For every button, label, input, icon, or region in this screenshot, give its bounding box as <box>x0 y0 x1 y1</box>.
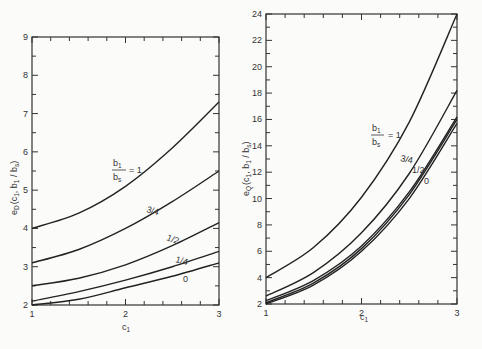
left-curves <box>32 102 219 305</box>
svg-text:bs: bs <box>372 137 381 148</box>
y-tick-label: 9 <box>23 32 28 42</box>
left-y-axis-label: eD(c1, b1 / bs) <box>9 161 20 215</box>
charts-canvas: 23456789123 eD(c1, b1 / bs) c1 b1 bs = 1… <box>0 0 482 349</box>
series-line <box>266 117 457 301</box>
series-line <box>32 251 219 301</box>
series-line <box>32 171 219 263</box>
y-tick-label: 20 <box>252 62 262 72</box>
x-tick-label: 3 <box>454 308 459 318</box>
left-chart: 23456789123 eD(c1, b1 / bs) c1 b1 bs = 1… <box>9 32 222 333</box>
y-tick-label: 5 <box>23 185 28 195</box>
y-tick-label: 10 <box>252 194 262 204</box>
y-tick-label: 8 <box>23 70 28 80</box>
left-label-3-4: 3/4 <box>145 204 160 217</box>
y-tick-label: 24 <box>252 9 262 19</box>
svg-text:= 1: = 1 <box>388 130 401 140</box>
y-tick-label: 22 <box>252 35 262 45</box>
x-tick-label: 3 <box>216 309 221 319</box>
y-tick-label: 6 <box>257 246 262 256</box>
y-tick-label: 4 <box>257 273 262 283</box>
y-tick-label: 8 <box>257 220 262 230</box>
x-tick-label: 1 <box>29 309 34 319</box>
right-chart: 24681012141618202224123 eQ(c1, b1 / bs) … <box>241 9 460 323</box>
y-tick-label: 7 <box>23 109 28 119</box>
x-tick-label: 2 <box>123 309 128 319</box>
svg-text:= 1: = 1 <box>129 165 142 175</box>
right-label-1-2: 1/2 <box>412 165 425 175</box>
y-tick-label: 2 <box>257 299 262 309</box>
right-x-axis-label: c1 <box>360 312 369 323</box>
svg-text:b1: b1 <box>113 158 122 169</box>
left-label-1-2: 1/2 <box>165 232 180 246</box>
left-x-axis-label: c1 <box>122 322 131 333</box>
y-tick-label: 2 <box>23 300 28 310</box>
y-tick-label: 3 <box>23 262 28 272</box>
y-tick-label: 16 <box>252 114 262 124</box>
series-line <box>32 263 219 305</box>
series-line <box>32 223 219 286</box>
right-curves <box>266 14 457 304</box>
right-label-3-4: 3/4 <box>400 153 414 165</box>
svg-text:bs: bs <box>113 172 122 183</box>
series-line <box>32 102 219 228</box>
y-tick-label: 4 <box>23 223 28 233</box>
x-tick-label: 1 <box>263 308 268 318</box>
series-line <box>266 14 457 278</box>
left-label-0: 0 <box>183 274 188 284</box>
right-label-0: 0 <box>424 176 429 186</box>
series-line <box>266 119 457 302</box>
y-tick-label: 6 <box>23 147 28 157</box>
svg-text:b1: b1 <box>372 123 381 134</box>
left-label-ratio-1: b1 bs = 1 <box>112 158 142 183</box>
left-tick-labels: 23456789123 <box>23 32 222 319</box>
series-line <box>266 123 457 304</box>
y-tick-label: 12 <box>252 167 262 177</box>
y-tick-label: 18 <box>252 88 262 98</box>
y-tick-label: 14 <box>252 141 262 151</box>
series-line <box>266 90 457 296</box>
